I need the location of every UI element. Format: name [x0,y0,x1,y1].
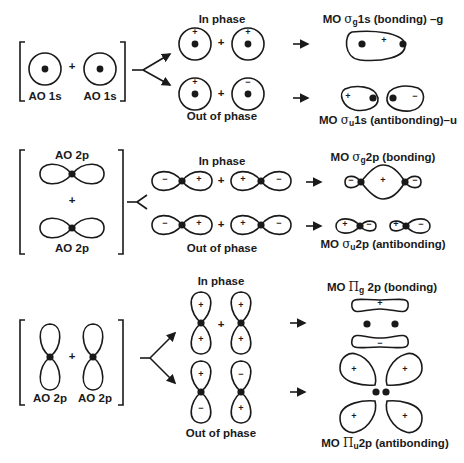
symmetry-subscript: g [359,285,364,295]
row1-out-phase-sign-2: − [245,77,250,87]
row2-out-phase-plus: + [218,218,225,230]
row1-in-phase-label: In phase [199,13,246,25]
symmetry-subscript: u [350,242,355,252]
row2-ao-plus: + [69,194,76,206]
row3-out-of-phase-label: Out of phase [186,427,256,439]
row1-mo-sigma-u-1s [342,86,424,111]
row2-in-phase-sign-2: + [196,174,201,184]
row3-antibonding-sign-4: + [402,411,407,421]
sigma-symbol: σ [344,12,352,26]
row1-out-phase-plus: + [218,87,225,99]
row3-out-phase-sign-2: − [198,403,203,413]
row2-out-phase-sign-2: + [196,218,201,228]
mo-suffix: 1s (bonding) –g [358,13,444,25]
row3-split-arrow [140,333,175,383]
row2-in-phase-label: In phase [199,155,246,167]
row3-ao-right-label: AO 2p [78,392,112,404]
row3-ao-left-label: AO 2p [33,392,67,404]
row1-ao-right-label: AO 1s [83,90,116,102]
row1-in-phase-plus: + [218,36,225,48]
row3-ao-2p-left [40,324,60,390]
row1-ao-plus: + [69,60,76,72]
row2-in-phase-plus: + [218,174,225,186]
row1-mo-sigma-g-1s [346,31,405,60]
row2-antibonding-sign-2: − [366,219,371,229]
row1-bonding-mo-label: MO σg1s (bonding) –g [323,12,444,26]
mo-prefix: MO [321,437,343,449]
row3-antibonding-mo-label: MO Πu2p (antibonding) [321,436,448,450]
pi-symbol: Π [349,280,359,294]
row3-ao-2p-right [83,324,103,390]
row2-out-phase-sign-4: − [276,218,281,228]
row1-out-phase-sign-1: + [192,77,197,87]
row2-split-arrow [127,195,147,209]
row2-bonding-sign-3: − [412,175,417,185]
row2-ao-bottom-label: AO 2p [55,242,89,254]
pi-symbol: Π [343,436,353,450]
row1-ao-left-label: AO 1s [28,90,61,102]
mo-suffix: 1s (antibonding)–u [354,114,457,126]
row3-antibonding-sign-3: + [351,411,356,421]
row2-bonding-sign-2: + [380,175,385,185]
symmetry-subscript: g [361,155,366,165]
row3-bonding-mo-label: MO Πg 2p (bonding) [327,280,437,294]
row2-out-phase-sign-3: + [240,218,245,228]
mo-prefix: MO [331,151,353,163]
row2-out-of-phase-label: Out of phase [187,242,257,254]
row2-bonding-mo-label: MO σg2p (bonding) [331,150,436,164]
row2-in-phase-sign-4: − [276,174,281,184]
symmetry-subscript: u [353,441,358,451]
row3-in-phase-sign-4: + [238,334,243,344]
row1-antibonding-sign-1: + [345,91,350,101]
mo-prefix: MO [320,238,342,250]
mo-suffix: 2p (antibonding) [356,238,446,250]
row2-out-phase-sign-1: − [162,218,167,228]
row3-in-phase-sign-3: + [238,300,243,310]
row2-antibonding-mo-label: MO σu2p (antibonding) [320,237,445,251]
row1-ao-1s-right [84,53,116,85]
mo-prefix: MO [327,281,349,293]
row1-out-of-phase-label: Out of phase [187,110,257,122]
mo-suffix: 2p (antibonding) [359,437,449,449]
row2-antibonding-sign-3: + [393,219,398,229]
row2-mo-sigma-u-2p [336,219,430,233]
row1-bonding-sign: + [381,35,386,45]
row3-antibonding-sign-2: + [402,364,407,374]
mo-suffix: 2p (bonding) [364,281,437,293]
row3-out-phase-sign-4: + [238,403,243,413]
row3-out-phase-sign-3: − [238,369,243,379]
row1-ao-1s-left [29,53,61,85]
row3-in-phase-sign-2: + [198,334,203,344]
row3-bonding-sign-1: + [377,298,382,308]
row3-ao-plus: + [69,350,76,362]
mo-prefix: MO [323,13,345,25]
row2-antibonding-sign-1: + [342,219,347,229]
row1-split-arrow [132,54,170,85]
row1-antibonding-sign-2: − [412,91,417,101]
row2-in-phase-sign-3: + [240,174,245,184]
mo-suffix: 2p (bonding) [366,151,436,163]
symmetry-subscript: g [353,17,358,27]
row1-antibonding-mo-label: MO σu1s (antibonding)–u [319,113,457,127]
row3-out-phase-sign-1: + [198,369,203,379]
sigma-symbol: σ [341,113,349,127]
row3-antibonding-sign-1: + [351,364,356,374]
row2-bonding-sign-1: − [348,175,353,185]
row2-ao-top-label: AO 2p [55,149,89,161]
row1-in-phase-sign-2: + [245,27,250,37]
sigma-symbol: σ [352,150,360,164]
row2-ao-2p-top [40,164,104,184]
sigma-symbol: σ [342,237,350,251]
row3-in-phase-plus: + [218,318,225,330]
row2-antibonding-sign-4: − [418,219,423,229]
row2-ao-2p-bottom [40,218,104,238]
mo-prefix: MO [319,114,341,126]
row2-in-phase-sign-1: − [162,174,167,184]
row3-in-phase-sign-1: + [198,300,203,310]
row3-bonding-sign-2: − [377,338,382,348]
row1-in-phase-sign-1: + [192,27,197,37]
symmetry-subscript: u [349,118,354,128]
row3-in-phase-label: In phase [198,275,245,287]
